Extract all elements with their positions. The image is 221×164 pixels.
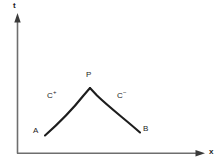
point-label-a: A bbox=[33, 127, 39, 135]
horizontal-axis-label: x bbox=[209, 148, 214, 156]
horizontal-axis-arrowhead bbox=[196, 150, 206, 156]
diagram-canvas bbox=[0, 0, 221, 164]
curve-label-c-minus: C− bbox=[117, 92, 127, 100]
characteristics-diagram: t x A B P C+ C− bbox=[0, 0, 221, 164]
curve-c-minus bbox=[90, 88, 140, 133]
curve-label-c-plus: C+ bbox=[47, 92, 57, 100]
vertical-axis-label: t bbox=[13, 2, 16, 10]
curve-label-c-plus-superscript: + bbox=[53, 89, 57, 95]
curve-label-c-minus-superscript: − bbox=[123, 89, 127, 95]
vertical-axis-arrowhead bbox=[14, 13, 20, 23]
point-label-p: P bbox=[86, 71, 92, 79]
point-label-b: B bbox=[143, 125, 149, 133]
